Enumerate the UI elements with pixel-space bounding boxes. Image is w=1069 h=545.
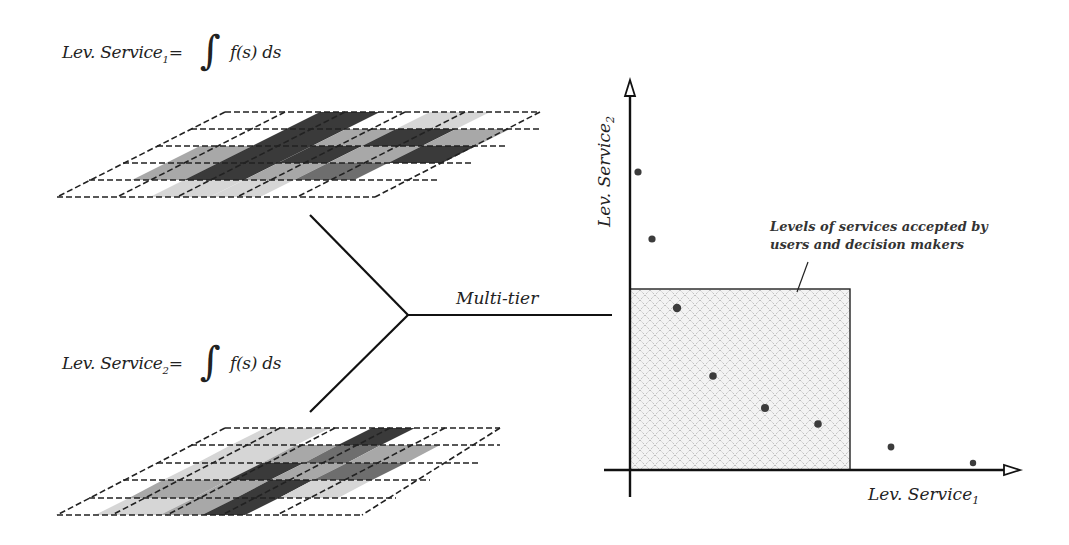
y-axis-label: Lev. Service2 — [594, 97, 617, 247]
y-axis-label-subscript: 2 — [604, 116, 617, 123]
raster-grid-service-2 — [57, 428, 500, 515]
x-axis-label-subscript: 1 — [972, 494, 979, 507]
y-axis-arrow-icon — [625, 80, 635, 96]
y-axis-label-text: Lev. Service — [594, 123, 614, 227]
annotation-leader-line — [797, 262, 808, 292]
x-axis-label: Lev. Service1 — [868, 484, 979, 507]
x-axis-arrow-icon — [1004, 465, 1020, 475]
annotation-line-2: users and decision makers — [770, 236, 988, 254]
multi-tier-label: Multi-tier — [456, 288, 538, 308]
raster-grid-service-1 — [57, 112, 540, 197]
annotation-line-1: Levels of services accepted by — [770, 218, 988, 236]
diagram-canvas — [0, 0, 1069, 545]
multi-tier-connector — [310, 215, 612, 412]
x-axis-label-text: Lev. Service — [868, 484, 972, 504]
acceptance-annotation: Levels of services accepted by users and… — [770, 218, 988, 254]
scatter-chart — [604, 80, 1020, 497]
